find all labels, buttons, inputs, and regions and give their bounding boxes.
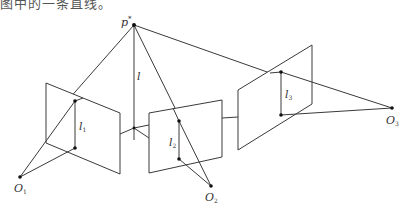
l1-top-point <box>73 99 77 103</box>
o3-point <box>390 106 394 110</box>
l2-top-point <box>177 119 181 123</box>
apex-label: p* <box>121 15 132 29</box>
l3-top-point <box>279 70 283 74</box>
o3-label: O3 <box>386 114 399 127</box>
o1-point <box>18 175 22 179</box>
l-junction-point <box>133 127 136 130</box>
epipolar-diagram: p* l l1 l2 l3 O1 O2 O3 <box>0 0 409 208</box>
connector-mid-bot <box>134 128 149 138</box>
right-plane <box>238 45 312 150</box>
l3-bottom-point <box>279 113 283 117</box>
o2-point <box>209 184 213 188</box>
line-l-label: l <box>137 70 141 83</box>
o1-label: O1 <box>14 182 27 195</box>
connector-left <box>120 128 134 134</box>
o2-label: O2 <box>205 191 218 204</box>
middle-plane <box>149 100 222 173</box>
ray-o1-bottom <box>20 148 75 177</box>
l1-bottom-point <box>73 146 77 150</box>
connector-mid-right <box>222 117 238 118</box>
l2-bottom-point <box>177 157 181 161</box>
apex-point <box>132 23 136 27</box>
connector-mid-top <box>134 125 149 128</box>
